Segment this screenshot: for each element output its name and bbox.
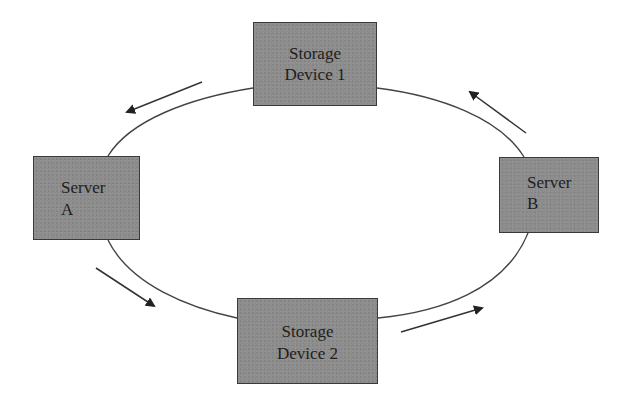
storage-device-2-line1: Storage <box>238 321 377 342</box>
storage-device-2-line2: Device 2 <box>238 343 377 364</box>
storage-device-1-line2: Device 1 <box>254 64 376 85</box>
arrow-to-serverA <box>127 82 202 112</box>
arrow-to-storage1 <box>470 92 526 133</box>
ring-segment-storage2-serverB <box>378 233 528 318</box>
server-b-node: Server B <box>499 157 599 233</box>
arrow-to-storage2 <box>96 268 154 306</box>
storage-device-1-node: Storage Device 1 <box>253 22 377 106</box>
ring-segment-serverB-storage1 <box>377 88 524 157</box>
server-a-line1: Server <box>61 177 105 198</box>
server-b-line2: B <box>527 193 538 214</box>
arrow-to-serverB <box>401 308 482 332</box>
server-a-node: Server A <box>33 156 140 240</box>
ring-segment-serverA-storage2 <box>108 240 237 318</box>
ring-segment-storage1-serverA <box>108 88 253 156</box>
server-b-line1: Server <box>527 172 571 193</box>
storage-device-2-node: Storage Device 2 <box>237 298 378 384</box>
server-a-line2: A <box>61 199 73 220</box>
storage-device-1-line1: Storage <box>254 43 376 64</box>
